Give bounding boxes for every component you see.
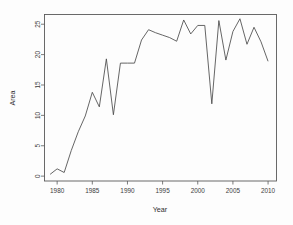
x-tick-label: 2000 [191,187,206,194]
x-tick-label: 1990 [120,187,135,194]
chart-figure: 0510152025 1980198519901995200020052010 … [0,0,293,225]
x-tick-label: 1995 [155,187,170,194]
x-tick-label: 1980 [50,187,65,194]
y-tick-label: 25 [34,20,41,28]
x-tick-label: 2005 [226,187,241,194]
y-tick-label: 5 [34,144,41,148]
y-tick-label: 10 [34,111,41,119]
x-tick-label: 1985 [85,187,100,194]
y-axis-title: Area [8,90,17,105]
x-tick-label: 2010 [261,187,276,194]
y-tick-label: 15 [34,81,41,89]
chart-background [0,0,293,225]
y-tick-label: 20 [34,51,41,59]
line-chart: 0510152025 1980198519901995200020052010 … [0,0,293,225]
y-tick-label: 0 [34,174,41,178]
x-axis-title: Year [153,205,168,214]
